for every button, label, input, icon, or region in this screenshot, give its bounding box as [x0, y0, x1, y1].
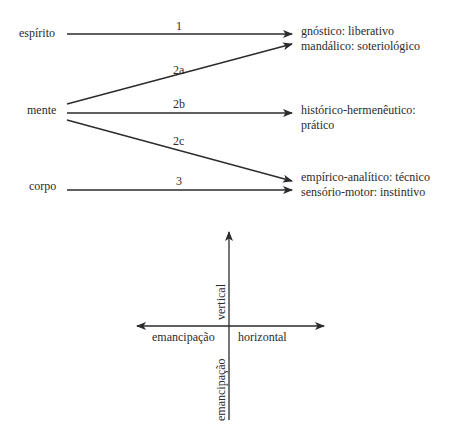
axis-label-emancipacao-horizontal: emancipação: [152, 330, 215, 344]
edge-2c-arrow: [67, 120, 292, 181]
edge-label-2b: 2b: [173, 97, 185, 111]
axis-label-horizontal: horizontal: [238, 330, 287, 344]
target-empirico: empírico-analítico: técnico: [301, 170, 430, 185]
target-sensorio: sensório-motor: instintivo: [301, 185, 425, 200]
edge-label-1: 1: [176, 19, 182, 33]
target-gnostico: gnóstico: liberativo: [301, 24, 394, 39]
axis-label-emancipacao-vertical: emancipação: [214, 358, 228, 421]
diagram-lines: [0, 0, 459, 441]
target-historico-line2: prático: [301, 118, 334, 133]
edge-label-3: 3: [176, 174, 182, 188]
edge-label-2a: 2a: [173, 63, 184, 77]
source-label-espirito: espírito: [19, 26, 55, 40]
target-mandalico: mandálico: soteriológico: [301, 39, 420, 54]
axis-label-vertical: vertical: [214, 284, 228, 320]
source-label-corpo: corpo: [29, 179, 56, 193]
source-label-mente: mente: [27, 103, 56, 117]
target-historico-line1: histórico-hermenêutico:: [301, 103, 416, 118]
edge-label-2c: 2c: [173, 134, 184, 148]
